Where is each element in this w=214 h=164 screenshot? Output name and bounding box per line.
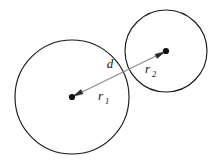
right-center-dot [163,48,169,54]
label-radius-two-letter: r [145,61,151,76]
label-radius-one-letter: r [98,88,104,103]
label-distance-d: d [107,56,114,71]
left-center-dot [69,94,75,100]
label-radius-two-subscript: 2 [152,69,157,79]
circle-diagram-canvas: d r 1 r 2 [0,0,214,164]
label-radius-one-subscript: 1 [105,96,109,106]
label-radius-two: r 2 [145,61,157,79]
two-circles-diagram: d r 1 r 2 [0,0,214,164]
label-radius-one: r 1 [98,88,109,106]
